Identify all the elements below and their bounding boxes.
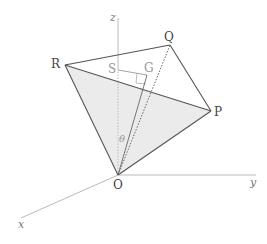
x-axis [21,175,118,218]
point-s-label: S [108,62,116,76]
point-p-label: P [214,105,222,119]
z-axis-label: z [109,11,116,24]
y-axis-label: y [249,176,257,189]
shaded-face-orp [65,65,211,175]
x-axis-label: x [18,218,25,231]
tetrahedron-diagram: z y x Q R P O S G θ [0,0,267,244]
segment-sg [118,70,147,75]
angle-theta-label: θ [119,133,125,144]
point-r-label: R [51,57,61,71]
point-g-label: G [144,61,154,75]
point-o-label: O [113,178,123,192]
point-q-label: Q [164,30,174,44]
